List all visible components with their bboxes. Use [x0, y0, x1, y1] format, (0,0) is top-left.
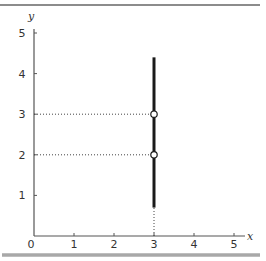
y-tick-label: 2	[19, 149, 26, 162]
x-tick-label: 0	[28, 238, 35, 251]
y-tick-label: 3	[19, 108, 26, 121]
y-tick-label: 1	[19, 189, 26, 202]
guide-lines	[34, 114, 154, 236]
x-tick-label: 3	[151, 238, 158, 251]
y-tick-label: 5	[19, 27, 26, 40]
y-axis-label: y	[27, 10, 35, 23]
chart: 01234512345 x y	[0, 0, 266, 261]
y-tick-label: 4	[19, 68, 26, 81]
axes: 01234512345	[19, 27, 246, 251]
x-tick-label: 1	[71, 238, 78, 251]
x-tick-label: 4	[191, 238, 198, 251]
open-circle-marker	[151, 111, 157, 117]
x-tick-label: 5	[231, 238, 238, 251]
x-tick-label: 2	[111, 238, 118, 251]
x-axis-label: x	[247, 230, 254, 243]
open-circle-marker	[151, 152, 157, 158]
